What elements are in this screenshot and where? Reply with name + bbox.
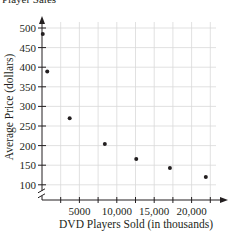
x-tick-label: 15,000 <box>139 205 170 217</box>
tick-labels: 500010,00015,00020,000100150200250300350… <box>20 22 208 217</box>
data-point <box>204 175 208 179</box>
y-tick-label: 150 <box>20 159 37 171</box>
x-tick-label: 20,000 <box>176 205 207 217</box>
x-tick-label: 5000 <box>68 205 91 217</box>
y-tick-label: 450 <box>20 42 37 54</box>
axes <box>38 16 228 203</box>
data-point <box>41 32 45 36</box>
y-tick-label: 400 <box>20 61 37 73</box>
data-point <box>45 70 49 74</box>
data-point <box>103 142 107 146</box>
y-tick-label: 350 <box>20 81 37 93</box>
x-axis-label: DVD Players Sold (in thousands) <box>59 218 213 231</box>
data-point <box>134 157 138 161</box>
y-tick-label: 250 <box>20 120 37 132</box>
y-tick-label: 100 <box>20 179 37 191</box>
y-axis-label: Average Price (dollars) <box>3 54 16 161</box>
scatter-chart: 500010,00015,00020,000100150200250300350… <box>0 0 232 233</box>
y-tick-label: 300 <box>20 100 37 112</box>
y-tick-label: 500 <box>20 22 37 34</box>
data-points <box>41 32 208 179</box>
data-point <box>68 116 72 120</box>
x-tick-label: 10,000 <box>102 205 133 217</box>
y-tick-label: 200 <box>20 140 37 152</box>
grid <box>42 22 216 200</box>
data-point <box>168 166 172 170</box>
